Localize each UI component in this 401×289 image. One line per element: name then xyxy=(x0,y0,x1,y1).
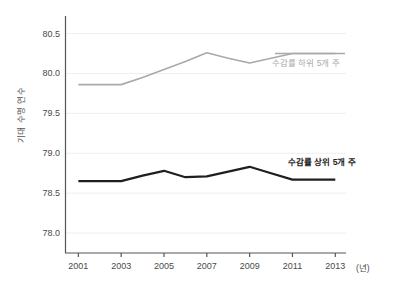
line-chart: 기대 수명 연수 80.580.079.579.078.578.0 200120… xyxy=(0,0,401,289)
series-label-low: 수감률 하위 5개 주 xyxy=(272,56,340,68)
x-axis-tick-label: 2013 xyxy=(325,261,345,271)
x-axis-tick-label: 2007 xyxy=(197,261,217,271)
series-label-high: 수감률 상위 5개 주 xyxy=(288,155,356,167)
x-axis-tick-label: 2011 xyxy=(283,261,302,271)
series-line-high xyxy=(78,167,335,181)
x-axis-unit-label: (년) xyxy=(356,261,370,273)
x-axis-tick-label: 2005 xyxy=(154,261,174,271)
x-axis-tick-label: 2001 xyxy=(68,261,88,271)
x-axis-tick-label: 2009 xyxy=(240,261,260,271)
x-axis-tick-label: 2003 xyxy=(111,261,131,271)
plot-area xyxy=(0,0,401,289)
axis-spine xyxy=(66,16,347,253)
